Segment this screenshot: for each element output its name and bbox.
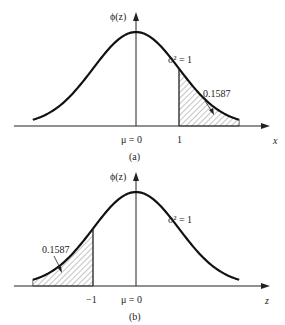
- panel-a: ϕ(z) x μ = 0 1 σ² = 1 0.1587 (a): [14, 11, 278, 163]
- x-axis-arrow-icon: [261, 283, 270, 289]
- panel-caption: (a): [129, 151, 140, 163]
- mean-label: μ = 0: [121, 134, 142, 145]
- panel-b: ϕ(z) z μ = 0 −1 σ² = 1 0.1587 (b): [14, 171, 270, 323]
- x-axis-label: x: [272, 135, 278, 146]
- y-axis-label: ϕ(z): [110, 171, 126, 183]
- y-axis-label: ϕ(z): [110, 11, 126, 23]
- cut-label: 1: [177, 134, 182, 145]
- normal-distribution-diagram: ϕ(z) x μ = 0 1 σ² = 1 0.1587 (a) ϕ(z) z …: [0, 0, 285, 325]
- cut-label: −1: [86, 294, 97, 305]
- x-axis-arrow-icon: [261, 123, 270, 129]
- y-axis-arrow-icon: [133, 12, 139, 21]
- area-label: 0.1587: [203, 88, 231, 99]
- panel-caption: (b): [129, 311, 141, 323]
- mean-label: μ = 0: [121, 294, 142, 305]
- y-axis-arrow-icon: [133, 172, 139, 181]
- area-label: 0.1587: [42, 244, 70, 255]
- variance-label: σ² = 1: [168, 214, 192, 225]
- variance-label: σ² = 1: [168, 54, 192, 65]
- x-axis-label: z: [264, 295, 269, 306]
